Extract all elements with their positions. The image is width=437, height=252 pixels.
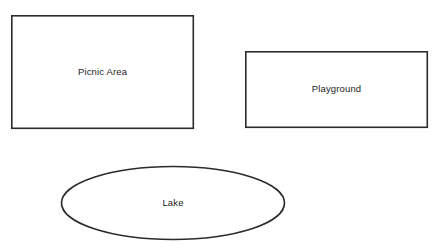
picnic-area-label: Picnic Area [11,15,194,129]
playground-label-text: Playground [312,84,362,94]
picnic-area-label-text: Picnic Area [78,67,127,77]
lake-label-text: Lake [162,198,183,208]
park-map-canvas: Picnic Area Playground Lake [0,0,437,252]
lake-label: Lake [61,166,285,240]
playground-label: Playground [245,51,428,128]
